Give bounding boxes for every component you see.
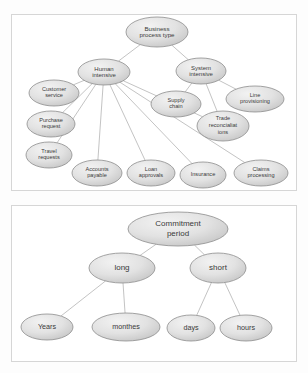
edge-long-to-monthes (123, 283, 125, 313)
edge-human-intensive-to-loan-approvals (110, 85, 145, 161)
node-trade-reconciliations[interactable]: Tradereconcialiations (197, 111, 249, 141)
node-label-customer-service: Customerservice (42, 86, 66, 99)
edge-system-intensive-to-supply-chain (185, 83, 192, 92)
node-label-insurance: Insurance (191, 171, 216, 177)
edge-short-to-days (197, 283, 212, 316)
node-hours[interactable]: hours (220, 315, 272, 341)
node-accounts-payable[interactable]: Accountspayable (72, 160, 122, 186)
edge-root-to-system-intensive (172, 45, 189, 60)
node-label-days: days (183, 323, 199, 332)
node-customer-service[interactable]: Customerservice (29, 80, 79, 106)
node-short[interactable]: short (190, 253, 246, 283)
node-label-short: short (209, 263, 228, 272)
node-days[interactable]: days (167, 315, 215, 341)
diagram-drawing-layer: Businessprocess typeHumanintensiveSystem… (0, 0, 308, 373)
node-supply-chain[interactable]: Supplychain (151, 91, 201, 117)
node-claims-processing[interactable]: Claimsprocessing (234, 160, 288, 186)
node-loan-approvals[interactable]: Loanapprovals (127, 160, 175, 186)
node-travel-requests[interactable]: Travelrequests (26, 142, 72, 168)
edge-short-to-hours (225, 283, 240, 316)
edge-human-intensive-to-accounts-payable (98, 85, 103, 160)
node-label-long: long (114, 263, 129, 272)
node-label-hours: hours (237, 323, 255, 332)
node-insurance[interactable]: Insurance (180, 162, 226, 188)
node-long[interactable]: long (89, 253, 155, 283)
nodes-layer: Businessprocess typeHumanintensiveSystem… (21, 17, 288, 341)
node-label-purchase-request: Purchaserequest (39, 117, 63, 130)
edge-root-to-human-intensive (118, 45, 140, 62)
edge-long-to-years (61, 281, 106, 316)
edge-b-root-to-long (140, 244, 156, 255)
node-label-monthes: monthes (112, 322, 140, 331)
edge-human-intensive-to-customer-service (73, 80, 84, 84)
node-label-years: Years (38, 322, 57, 331)
node-b-root[interactable]: Commitmentperiod (128, 212, 228, 246)
document-canvas: Businessprocess typeHumanintensiveSystem… (0, 0, 308, 373)
node-purchase-request[interactable]: Purchaserequest (27, 111, 75, 137)
node-human-intensive[interactable]: Humanintensive (78, 59, 130, 85)
edge-system-intensive-to-line-provisioning (219, 80, 236, 89)
node-monthes[interactable]: monthes (92, 313, 160, 341)
edge-system-intensive-to-trade-reconciliations (206, 84, 217, 112)
node-system-intensive[interactable]: Systemintensive (176, 58, 226, 84)
node-label-supply-chain: Supplychain (167, 97, 184, 110)
node-line-provisioning[interactable]: Lineprovisioning (226, 86, 284, 112)
node-label-accounts-payable: Accountspayable (85, 166, 108, 179)
node-root[interactable]: Businessprocess type (126, 17, 188, 47)
node-label-human-intensive: Humanintensive (92, 65, 116, 78)
node-years[interactable]: Years (21, 314, 73, 340)
node-label-system-intensive: Systemintensive (189, 64, 213, 77)
edge-b-root-to-short (194, 245, 204, 255)
